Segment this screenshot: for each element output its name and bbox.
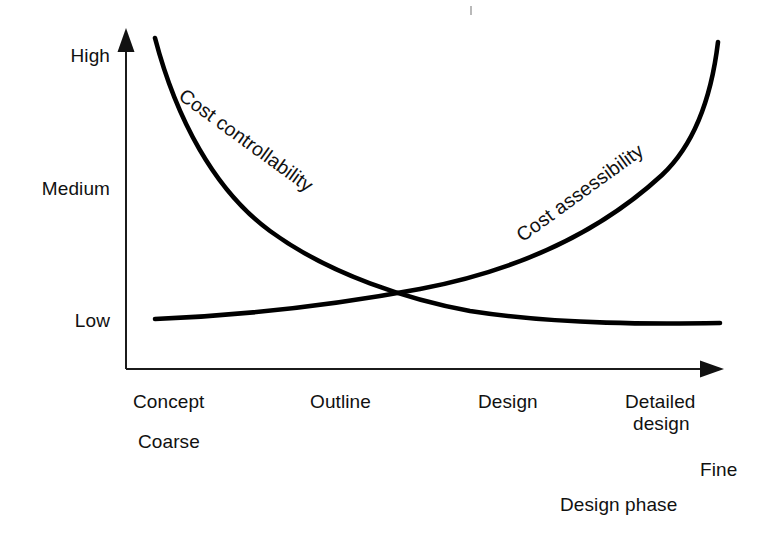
x-axis-arrowhead-icon bbox=[700, 361, 724, 378]
curve-cost-assessibility bbox=[155, 42, 718, 319]
x-tick-label-detailed-design-line1: Detailed bbox=[625, 390, 696, 413]
y-tick-label-low: Low bbox=[6, 309, 110, 332]
scan-artifact-speck bbox=[470, 6, 472, 15]
x-range-label-fine: Fine bbox=[700, 458, 737, 481]
x-range-label-coarse: Coarse bbox=[138, 430, 200, 453]
x-tick-label-design: Design bbox=[478, 390, 538, 413]
y-axis-arrowhead-icon bbox=[118, 28, 135, 52]
chart-canvas bbox=[0, 0, 779, 540]
chart-figure: High Medium Low Concept Outline Design D… bbox=[0, 0, 779, 540]
curve-cost-controllability bbox=[155, 38, 720, 324]
y-tick-label-medium: Medium bbox=[6, 177, 110, 200]
x-tick-label-detailed-design-line2: design bbox=[633, 412, 690, 435]
x-tick-label-outline: Outline bbox=[310, 390, 371, 413]
y-tick-label-high: High bbox=[6, 44, 110, 67]
x-axis-title: Design phase bbox=[560, 493, 677, 516]
x-tick-label-concept: Concept bbox=[133, 390, 204, 413]
